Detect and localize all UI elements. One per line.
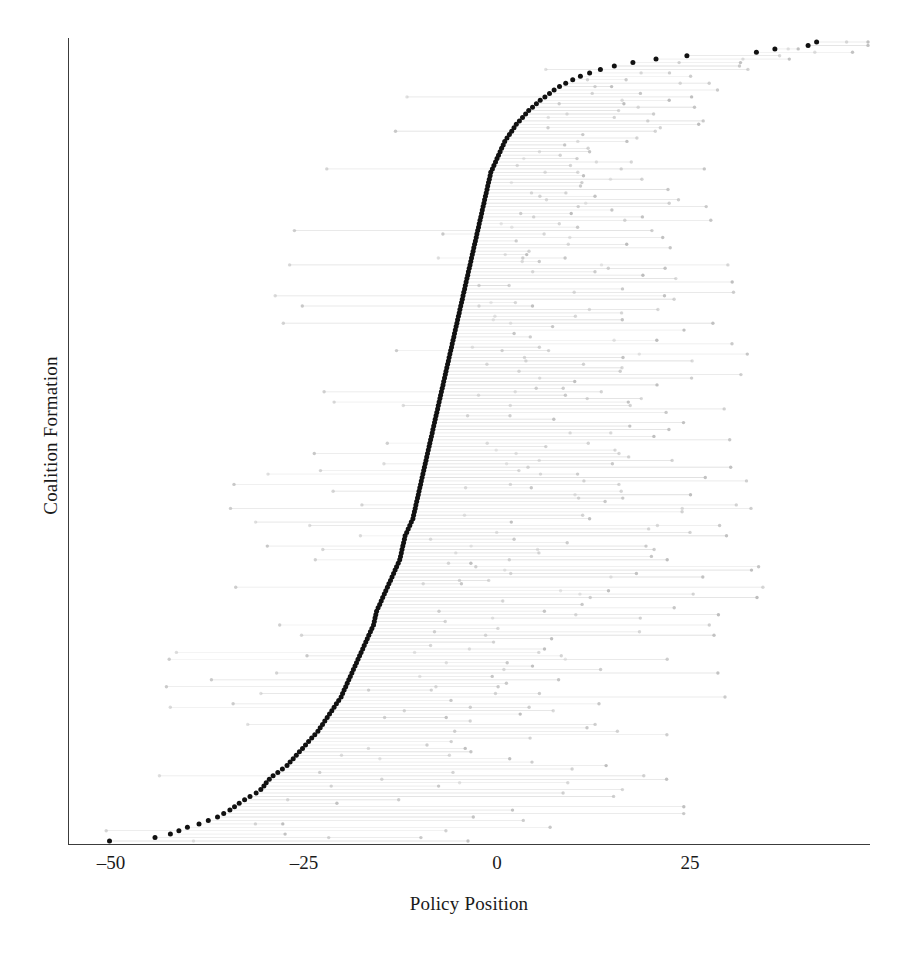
range-endpoint-dot	[444, 620, 447, 623]
range-endpoint-dot	[538, 346, 541, 349]
range-endpoint-dot	[593, 270, 596, 273]
coalition-point	[578, 74, 583, 79]
range-endpoint-dot	[158, 774, 161, 777]
coalition-point	[280, 767, 285, 772]
range-endpoint-dot	[360, 503, 363, 506]
range-member-dot	[845, 40, 848, 43]
range-endpoint-dot	[697, 123, 700, 126]
range-endpoint-dot	[582, 174, 585, 177]
range-member-dot	[574, 613, 577, 616]
range-endpoint-dot	[682, 421, 685, 424]
range-member-dot	[638, 352, 641, 355]
range-endpoint-dot	[234, 586, 237, 589]
range-member-dot	[458, 781, 461, 784]
range-endpoint-dot	[745, 479, 748, 482]
range-member-dot	[620, 99, 623, 102]
range-endpoint-dot	[538, 692, 541, 695]
range-endpoint-dot	[708, 623, 711, 626]
x-tick-label--50: –50	[97, 852, 126, 874]
range-endpoint-dot	[650, 229, 653, 232]
range-endpoint-dot	[635, 136, 638, 139]
range-endpoint-dot	[749, 507, 752, 510]
range-endpoint-dot	[725, 534, 728, 537]
coalition-point	[563, 81, 568, 86]
range-endpoint-dot	[335, 802, 338, 805]
range-member-dot	[418, 675, 421, 678]
range-line-group	[106, 42, 868, 841]
range-endpoint-dot	[582, 363, 585, 366]
coalition-point	[814, 40, 819, 45]
range-endpoint-dot	[641, 274, 644, 277]
range-member-dot	[591, 92, 594, 95]
range-endpoint-dot	[325, 167, 328, 170]
range-endpoint-dot	[668, 71, 671, 74]
range-member-dot	[639, 71, 642, 74]
range-endpoint-dot	[512, 332, 515, 335]
range-endpoint-dot	[550, 637, 553, 640]
range-endpoint-dot	[652, 435, 655, 438]
coalition-point	[168, 832, 173, 837]
range-endpoint-dot	[308, 524, 311, 527]
range-endpoint-dot	[573, 380, 576, 383]
range-endpoint-dot	[530, 760, 533, 763]
range-endpoint-dot	[593, 195, 596, 198]
range-member-dot	[538, 150, 541, 153]
range-member-dot	[503, 568, 506, 571]
range-endpoint-dot	[607, 589, 610, 592]
range-endpoint-dot	[165, 685, 168, 688]
coalition-point	[197, 821, 202, 826]
range-endpoint-dot	[665, 778, 668, 781]
range-endpoint-dot	[531, 664, 534, 667]
range-endpoint-dot	[682, 328, 685, 331]
range-member-dot	[484, 634, 487, 637]
range-endpoint-dot	[670, 459, 673, 462]
range-endpoint-dot	[531, 304, 534, 307]
range-endpoint-dot	[621, 287, 624, 290]
range-member-dot	[538, 376, 541, 379]
coalition-point-group	[107, 40, 819, 844]
dot-plot-canvas	[0, 0, 897, 954]
range-endpoint-dot	[508, 757, 511, 760]
range-endpoint-dot	[313, 452, 316, 455]
range-endpoint-dot	[519, 712, 522, 715]
range-endpoint-dot	[624, 78, 627, 81]
range-endpoint-dot	[639, 616, 642, 619]
range-endpoint-dot	[669, 246, 672, 249]
range-member-dot	[646, 119, 649, 122]
range-endpoint-dot	[652, 548, 655, 551]
range-endpoint-dot	[738, 64, 741, 67]
range-member-dot	[741, 57, 744, 60]
range-endpoint-dot	[654, 130, 657, 133]
range-member-dot	[813, 51, 816, 54]
range-endpoint-dot	[487, 579, 490, 582]
range-endpoint-dot	[563, 256, 566, 259]
range-endpoint-dot	[641, 215, 644, 218]
range-endpoint-dot	[757, 565, 760, 568]
range-endpoint-dot	[680, 510, 683, 513]
range-endpoint-dot	[739, 373, 742, 376]
range-endpoint-dot	[600, 390, 603, 393]
range-endpoint-dot	[231, 702, 234, 705]
range-member-dot	[519, 212, 522, 215]
range-endpoint-dot	[716, 88, 719, 91]
range-endpoint-dot	[627, 455, 630, 458]
range-endpoint-dot	[305, 654, 308, 657]
range-endpoint-dot	[576, 171, 579, 174]
range-endpoint-dot	[561, 791, 564, 794]
range-endpoint-dot	[723, 407, 726, 410]
range-endpoint-dot	[259, 692, 262, 695]
range-member-dot	[538, 195, 541, 198]
range-endpoint-dot	[321, 548, 324, 551]
range-member-dot	[607, 267, 610, 270]
range-endpoint-dot	[705, 205, 708, 208]
range-member-dot	[509, 322, 512, 325]
range-endpoint-dot	[566, 781, 569, 784]
range-member-dot	[378, 757, 381, 760]
range-member-dot	[477, 394, 480, 397]
range-endpoint-dot	[732, 291, 735, 294]
range-endpoint-dot	[613, 448, 616, 451]
range-endpoint-dot	[527, 706, 530, 709]
range-member-dot	[600, 263, 603, 266]
range-member-dot	[286, 798, 289, 801]
range-member-dot	[463, 514, 466, 517]
